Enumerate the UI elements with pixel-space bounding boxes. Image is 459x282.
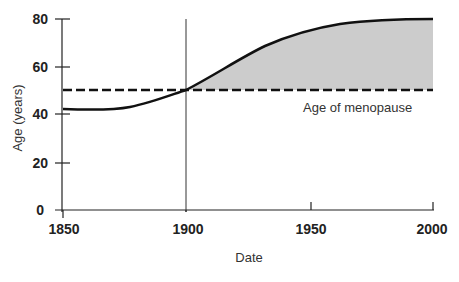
y-tick-label-20: 20 (32, 155, 48, 171)
menopause-label: Age of menopause (303, 100, 412, 115)
y-axis-title: Age (years) (10, 84, 25, 151)
x-tick-label-1850: 1850 (48, 221, 79, 237)
y-tick-label-40: 40 (32, 106, 48, 122)
x-axis-title: Date (235, 250, 262, 265)
y-tick-label-60: 60 (32, 59, 48, 75)
y-tick-label-80: 80 (32, 11, 48, 27)
x-tick-label-1950: 1950 (295, 221, 326, 237)
x-tick-label-2000: 2000 (416, 221, 447, 237)
chart: 80 60 40 20 0 1850 1900 1950 2000 Date A… (0, 0, 459, 282)
x-tick-label-1900: 1900 (172, 221, 203, 237)
y-tick-label-0: 0 (36, 202, 44, 218)
